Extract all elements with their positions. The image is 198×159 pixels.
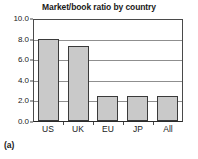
x-tick-label: All (154, 124, 182, 134)
y-tick-label: 2.0 (18, 97, 29, 105)
y-tick-label: 6.0 (18, 56, 29, 64)
bar (68, 46, 89, 121)
x-tick-label: JP (124, 124, 152, 134)
y-tick-label: 0.0 (18, 118, 29, 126)
y-tick-label: 4.0 (18, 77, 29, 85)
figure-caption: (a) (4, 140, 14, 150)
bar (157, 96, 178, 121)
x-tick-label: UK (64, 124, 92, 134)
x-axis: USUKEUJPAll (33, 124, 183, 138)
x-tick-label: EU (94, 124, 122, 134)
bar (38, 39, 59, 121)
bar (97, 96, 118, 121)
bar-series (34, 20, 182, 121)
y-tick-label: 10.0 (13, 15, 29, 23)
chart-title: Market/book ratio by country (0, 2, 198, 13)
x-tick-label: US (34, 124, 62, 134)
bar (127, 96, 148, 121)
y-axis: 0.02.04.06.08.010.0 (0, 19, 31, 122)
y-tick-label: 8.0 (18, 36, 29, 44)
figure-panel: Market/book ratio by country 0.02.04.06.… (0, 0, 198, 159)
plot-area (33, 19, 183, 122)
